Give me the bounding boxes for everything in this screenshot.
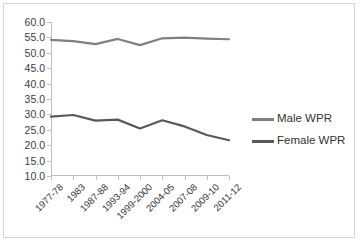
y-axis-tick: [47, 145, 51, 146]
y-axis-tick-label: 60.0: [25, 17, 45, 28]
chart-legend: Male WPR Female WPR: [252, 108, 352, 152]
legend-item-male[interactable]: Male WPR: [252, 108, 352, 130]
y-axis-tick: [47, 22, 51, 23]
y-axis-tick: [47, 37, 51, 38]
legend-swatch-female: [252, 140, 274, 143]
series-line-female: [51, 115, 229, 140]
y-axis-tick-label: 50.0: [25, 48, 45, 59]
legend-swatch-male: [252, 118, 274, 121]
series-line-male: [51, 38, 229, 45]
x-axis-category-label: 1977-78: [33, 182, 64, 213]
y-axis-tick: [47, 114, 51, 115]
y-axis-tick: [47, 161, 51, 162]
y-axis-tick-label: 40.0: [25, 78, 45, 89]
y-axis-tick: [47, 130, 51, 131]
legend-label-female: Female WPR: [277, 135, 345, 147]
y-axis-tick-label: 30.0: [25, 109, 45, 120]
y-axis-tick-label: 15.0: [25, 155, 45, 166]
y-axis-tick-label: 10.0: [25, 171, 45, 182]
plot-area: 60.055.050.045.040.035.030.025.020.015.0…: [51, 22, 229, 176]
y-axis-tick-label: 35.0: [25, 94, 45, 105]
legend-item-female[interactable]: Female WPR: [252, 130, 352, 152]
y-axis-tick: [47, 68, 51, 69]
y-axis-tick: [47, 53, 51, 54]
y-axis-tick-label: 45.0: [25, 63, 45, 74]
y-axis-tick: [47, 84, 51, 85]
legend-label-male: Male WPR: [277, 113, 332, 125]
chart-frame: 60.055.050.045.040.035.030.025.020.015.0…: [3, 3, 355, 238]
x-axis-tick: [229, 176, 230, 180]
y-axis-tick-label: 55.0: [25, 32, 45, 43]
y-axis-tick-label: 20.0: [25, 140, 45, 151]
y-axis-tick-label: 25.0: [25, 125, 45, 136]
x-axis-category-labels: 1977-7819831987-881993-941999-20002004-0…: [51, 176, 229, 238]
y-axis-tick: [47, 99, 51, 100]
series-lines: [51, 22, 229, 176]
